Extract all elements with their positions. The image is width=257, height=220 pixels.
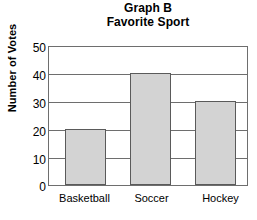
bar-hockey: [195, 101, 236, 185]
y-tick-label-20: 20: [6, 126, 46, 138]
bar-chart-screenshot: Graph B Favorite Sport Number of Votes 5…: [0, 0, 257, 220]
chart-title-line-1: Graph B: [48, 1, 248, 15]
chart-title-line-2: Favorite Sport: [48, 15, 248, 29]
bar-soccer: [130, 73, 171, 185]
y-tick-label-50: 50: [6, 42, 46, 54]
y-tick-label-40: 40: [6, 70, 46, 82]
y-axis-title: Number of Votes: [6, 8, 18, 128]
y-tick-label-30: 30: [6, 98, 46, 110]
bar-series: [49, 47, 247, 185]
x-tick-label-soccer: Soccer: [113, 192, 190, 205]
chart-title: Graph B Favorite Sport: [48, 1, 248, 29]
bar-basketball: [65, 129, 106, 185]
plot-area: [48, 46, 248, 186]
x-tick-label-hockey: Hockey: [182, 192, 257, 205]
y-tick-label-10: 10: [6, 154, 46, 166]
